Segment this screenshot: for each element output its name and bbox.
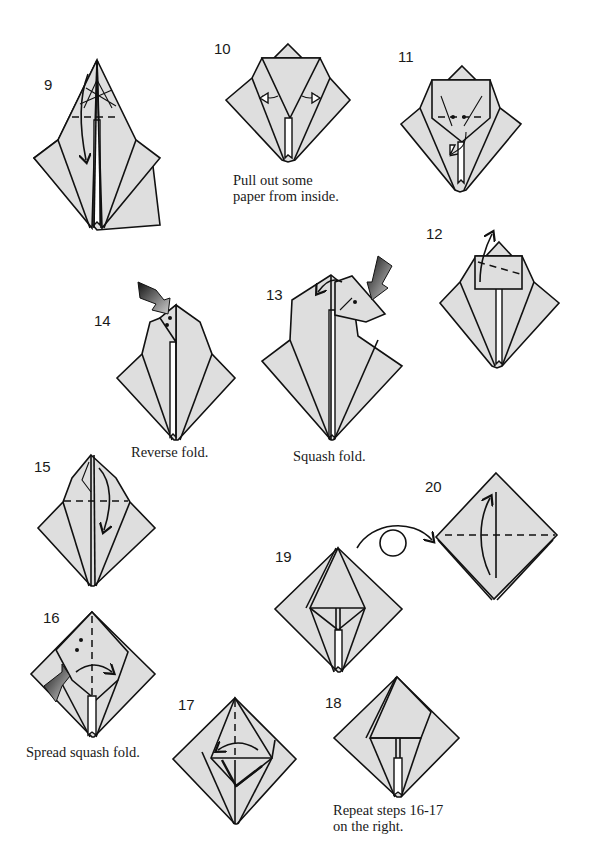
step-10-diagram xyxy=(226,44,350,162)
step-20-diagram xyxy=(436,473,557,600)
step-17-diagram xyxy=(173,698,296,824)
step-12-diagram xyxy=(440,234,559,368)
step-15-diagram xyxy=(38,455,155,586)
step-18-diagram xyxy=(334,677,459,797)
step-number-16: 16 xyxy=(43,609,60,626)
step-13-caption: Squash fold. xyxy=(293,448,366,464)
caption-line: Repeat steps 16-17 xyxy=(333,802,443,818)
caption-line: on the right. xyxy=(333,818,443,834)
step-number-19: 19 xyxy=(275,548,292,565)
step-13-diagram xyxy=(262,256,402,440)
step-14-diagram xyxy=(117,282,235,440)
step-number-17: 17 xyxy=(178,696,195,713)
step-number-11: 11 xyxy=(398,48,414,65)
step-number-14: 14 xyxy=(94,312,111,329)
step-10-caption: Pull out some paper from inside. xyxy=(233,172,339,204)
turn-over-arrow-icon xyxy=(357,526,432,556)
step-14-caption: Reverse fold. xyxy=(131,444,208,460)
diagram-canvas xyxy=(0,0,589,862)
step-number-18: 18 xyxy=(325,694,342,711)
step-number-13: 13 xyxy=(266,286,283,303)
step-number-20: 20 xyxy=(425,478,442,495)
step-9-diagram xyxy=(34,60,160,230)
step-16-caption: Spread squash fold. xyxy=(26,744,140,760)
step-18-caption: Repeat steps 16-17 on the right. xyxy=(333,802,443,834)
step-19-diagram xyxy=(275,548,402,672)
step-11-diagram xyxy=(401,66,521,192)
origami-instruction-page: 9 10 11 12 13 14 15 16 17 18 19 20 Pull … xyxy=(0,0,589,862)
caption-line: Pull out some xyxy=(233,172,339,188)
step-16-diagram xyxy=(31,612,155,737)
caption-line: paper from inside. xyxy=(233,188,339,204)
step-number-10: 10 xyxy=(214,40,231,57)
step-number-12: 12 xyxy=(426,225,443,242)
step-number-15: 15 xyxy=(34,458,51,475)
step-number-9: 9 xyxy=(44,76,52,93)
